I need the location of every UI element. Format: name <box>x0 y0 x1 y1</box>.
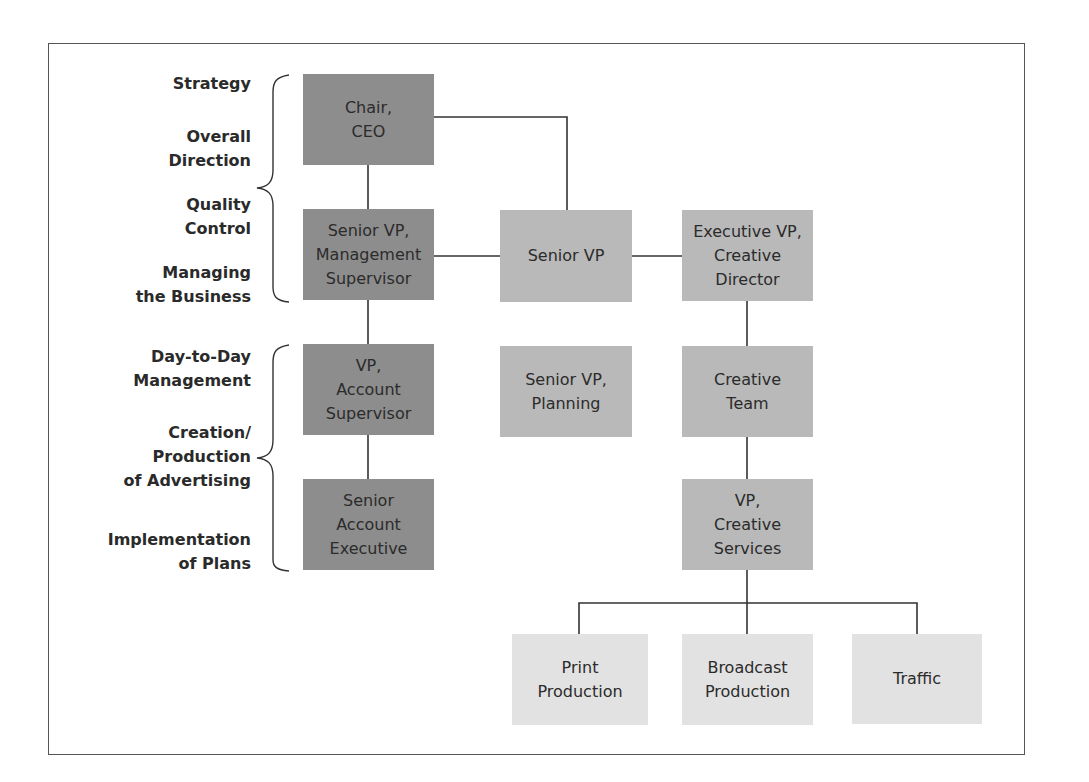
label-quality-control: Quality Control <box>185 193 251 241</box>
label-creation-production: Creation/ Production of Advertising <box>123 421 251 493</box>
box-creative-team: Creative Team <box>682 346 813 437</box>
box-traffic: Traffic <box>852 634 982 724</box>
box-senior-vp-management-supervisor: Senior VP, Management Supervisor <box>303 209 434 300</box>
box-label: Senior VP <box>528 244 605 268</box>
box-label: Broadcast Production <box>705 656 790 704</box>
box-label: Print Production <box>537 656 622 704</box>
box-label: VP, Account Supervisor <box>326 354 412 426</box>
box-senior-vp: Senior VP <box>500 210 632 302</box>
box-print-production: Print Production <box>512 634 648 725</box>
box-label: VP, Creative Services <box>714 489 781 561</box>
label-managing-business: Managing the Business <box>136 261 251 309</box>
box-label: Senior VP, Planning <box>525 368 607 416</box>
box-senior-vp-planning: Senior VP, Planning <box>500 346 632 437</box>
label-implementation: Implementation of Plans <box>108 528 251 576</box>
box-label: Senior VP, Management Supervisor <box>316 219 421 291</box>
box-label: Executive VP, Creative Director <box>693 220 802 292</box>
box-senior-account-executive: Senior Account Executive <box>303 479 434 570</box>
box-label: Chair, CEO <box>345 96 392 144</box>
box-vp-creative-services: VP, Creative Services <box>682 479 813 570</box>
box-vp-account-supervisor: VP, Account Supervisor <box>303 344 434 435</box>
label-day-to-day: Day-to-Day Management <box>133 345 251 393</box>
box-label: Senior Account Executive <box>330 489 408 561</box>
box-label: Creative Team <box>714 368 781 416</box>
box-chair-ceo: Chair, CEO <box>303 74 434 165</box>
box-executive-vp-creative-director: Executive VP, Creative Director <box>682 210 813 301</box>
box-broadcast-production: Broadcast Production <box>682 634 813 725</box>
label-strategy: Strategy <box>173 72 251 96</box>
brace-icon <box>257 75 289 571</box>
box-label: Traffic <box>893 667 941 691</box>
label-overall-direction: Overall Direction <box>168 125 251 173</box>
